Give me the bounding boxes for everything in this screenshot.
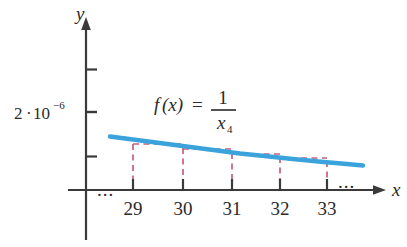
x-tick-label-31: 31 <box>223 198 242 219</box>
x-axis-right-ellipsis: ... <box>338 171 355 192</box>
function-label-equals: = <box>192 94 203 115</box>
x-tick-label-29: 29 <box>124 198 143 219</box>
figure-container: y 2 · 10 −6 <box>0 0 407 247</box>
y-tick-label-dot: · <box>26 104 32 123</box>
y-axis-label: y <box>74 3 85 24</box>
x-tick-label-33: 33 <box>318 198 337 219</box>
y-tick-label-exponent: −6 <box>53 99 65 111</box>
rectangle-31-32 <box>232 154 280 190</box>
function-label-numerator: 1 <box>218 87 228 108</box>
x-axis-label: x <box>391 179 401 200</box>
y-tick-label-group: 2 · 10 −6 <box>14 99 65 123</box>
function-curve <box>110 137 363 166</box>
function-label-denominator-exponent: 4 <box>227 123 233 135</box>
rectangle-30-31 <box>183 149 232 190</box>
function-label-arg: (x) <box>162 94 183 116</box>
integral-test-figure: y 2 · 10 −6 <box>0 0 407 247</box>
function-label-group: f (x) = 1 x 4 <box>154 87 236 135</box>
y-tick-label-base: 10 <box>33 104 50 123</box>
x-axis-left-ellipsis: ... <box>97 179 114 200</box>
y-axis-group <box>81 17 97 240</box>
y-tick-label-mantissa: 2 <box>14 104 23 123</box>
function-label-denominator-base: x <box>216 112 226 133</box>
x-tick-label-30: 30 <box>174 198 193 219</box>
x-axis-arrowhead <box>373 185 386 195</box>
function-label-name: f <box>154 94 162 115</box>
x-tick-label-32: 32 <box>271 198 290 219</box>
rectangle-29-30 <box>133 144 183 190</box>
